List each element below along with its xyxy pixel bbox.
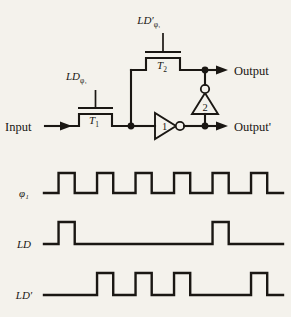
transistor-T1 bbox=[70, 90, 131, 126]
waveform-trace-ldprime bbox=[44, 273, 283, 295]
T2-label: T2 bbox=[157, 59, 167, 74]
waveform-trace-ld bbox=[44, 222, 283, 244]
output-lead bbox=[205, 66, 228, 75]
output-label: Output bbox=[234, 64, 269, 78]
T1-label: T1 bbox=[89, 114, 99, 129]
T1-gate-label: LDφ₁ bbox=[65, 70, 87, 85]
inv2-bubble bbox=[201, 85, 209, 93]
T2-channel-wire bbox=[131, 58, 205, 70]
waveform-label-ld: LD bbox=[16, 238, 31, 250]
figure-root: LDφ₁ T1 LD′φ₁ T2 1 bbox=[0, 0, 291, 317]
output-prime-arrowhead bbox=[216, 122, 228, 131]
input-lead bbox=[45, 122, 72, 131]
inverter-1 bbox=[131, 113, 205, 139]
transistor-T2 bbox=[131, 33, 205, 70]
circuit-schematic: LDφ₁ T1 LD′φ₁ T2 1 bbox=[5, 14, 271, 139]
output-prime-label: Output' bbox=[234, 120, 271, 134]
inverter-2 bbox=[192, 70, 218, 126]
waveform-label-phi1: φ₁ bbox=[19, 187, 29, 199]
waveform-label-ldprime: LD′ bbox=[15, 289, 33, 301]
input-label: Input bbox=[5, 120, 32, 134]
output-arrowhead bbox=[216, 66, 228, 75]
inverter-1-label: 1 bbox=[162, 121, 167, 132]
output-prime-lead bbox=[205, 122, 228, 131]
T2-gate-label: LD′φ₁ bbox=[136, 14, 161, 29]
timing-diagram: φ₁ LD LD′ bbox=[15, 173, 283, 301]
inv1-bubble bbox=[176, 122, 184, 130]
figure-canvas: LDφ₁ T1 LD′φ₁ T2 1 bbox=[0, 0, 291, 317]
inverter-2-label: 2 bbox=[202, 102, 207, 113]
waveform-trace-phi1 bbox=[44, 173, 283, 193]
T1-channel-wire bbox=[70, 114, 131, 126]
